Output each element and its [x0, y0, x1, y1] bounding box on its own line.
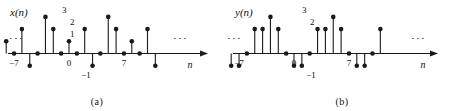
x-axis-variable-label: n [188, 59, 193, 70]
stem-marker [114, 27, 119, 32]
figure-caption-a: (a) [0, 96, 224, 107]
x-tick-label-7: 7 [122, 58, 127, 68]
stem-marker [90, 63, 95, 68]
amplitude-label-minus1: −1 [81, 70, 91, 80]
figure-panel-a: x(n) ․․․ ․․․ −7 0 7 3 2 1 −1 n (a) [0, 0, 224, 111]
stem-marker [339, 27, 344, 32]
stem-marker [145, 27, 150, 32]
amplitude-label-2: 2 [70, 17, 75, 27]
stem-marker [355, 63, 360, 68]
stem-group [229, 15, 383, 68]
figure-panel-b: y(n) ․․․ ․․․ −7 0 7 3 2 −1 n (b) [225, 0, 449, 111]
stem-group [4, 15, 158, 68]
x-tick-label-0: 0 [67, 58, 72, 68]
figure-caption-b: (b) [225, 96, 449, 107]
x-axis-arrowhead [430, 51, 438, 57]
stem-marker [284, 51, 289, 56]
stem-marker [137, 51, 142, 56]
stem-plot-x-of-n: x(n) ․․․ ․․․ −7 0 7 3 2 1 −1 n [0, 0, 224, 90]
stem-marker [347, 51, 352, 56]
stem-marker [27, 63, 32, 68]
left-ellipsis: ․․․ [9, 29, 24, 41]
stem-marker [307, 51, 312, 56]
x-tick-label-0: 0 [292, 58, 297, 68]
stem-marker [229, 63, 234, 68]
stem-marker [12, 51, 17, 56]
stem-marker [370, 51, 375, 56]
x-axis-variable-label: n [421, 59, 426, 70]
stem-marker [378, 27, 383, 32]
x-tick-label-minus7: −7 [9, 58, 19, 68]
stem-marker [315, 27, 320, 32]
x-tick-label-7: 7 [347, 58, 352, 68]
stem-marker [59, 51, 64, 56]
stem-marker [4, 39, 9, 44]
stem-marker [35, 51, 40, 56]
stem-marker [122, 51, 127, 56]
x-axis-arrowhead [200, 51, 208, 57]
stem-marker [362, 63, 367, 68]
stem-marker [323, 27, 328, 32]
x-tick-label-minus7: −7 [234, 58, 244, 68]
stem-marker [276, 27, 281, 32]
right-ellipsis: ․․․ [411, 29, 426, 41]
stem-marker [252, 27, 257, 32]
y-axis-label: x(n) [9, 6, 28, 19]
right-ellipsis: ․․․ [173, 29, 188, 41]
stem-marker [245, 51, 250, 56]
left-ellipsis: ․․․ [227, 29, 242, 41]
amplitude-label-minus1: −1 [306, 70, 316, 80]
y-axis-label: y(n) [234, 6, 253, 19]
amplitude-label-3: 3 [302, 5, 307, 15]
amplitude-label-2: 2 [310, 17, 315, 27]
stem-marker [67, 39, 72, 44]
stem-marker [75, 51, 80, 56]
stem-marker [51, 27, 56, 32]
stem-marker [130, 39, 135, 44]
stem-marker [98, 51, 103, 56]
stem-marker [82, 27, 87, 32]
stem-marker [153, 63, 158, 68]
stem-plot-y-of-n: y(n) ․․․ ․․․ −7 0 7 3 2 −1 n [225, 0, 449, 90]
stem-marker [268, 15, 273, 20]
stem-marker [300, 63, 305, 68]
stem-marker [260, 27, 265, 32]
amplitude-label-3: 3 [62, 5, 67, 15]
amplitude-label-1: 1 [70, 29, 75, 39]
stem-marker [106, 15, 111, 20]
stem-marker [331, 15, 336, 20]
stem-marker [43, 15, 48, 20]
